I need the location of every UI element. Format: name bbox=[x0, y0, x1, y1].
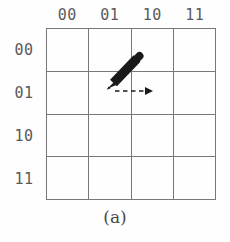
grid-cell[interactable] bbox=[89, 115, 131, 158]
grid-cell[interactable] bbox=[174, 29, 216, 72]
grid-cell[interactable] bbox=[132, 115, 174, 158]
grid-table bbox=[46, 28, 216, 200]
column-header-0: 00 bbox=[46, 4, 89, 26]
grid-cell[interactable] bbox=[132, 157, 174, 200]
row-header-1: 01 bbox=[4, 71, 44, 114]
row-header-0: 00 bbox=[4, 28, 44, 71]
column-header-row: 00 01 10 11 bbox=[46, 4, 216, 26]
grid-cell[interactable] bbox=[132, 29, 174, 72]
grid-cell[interactable] bbox=[132, 72, 174, 115]
grid-cell[interactable] bbox=[89, 29, 131, 72]
grid-cell[interactable] bbox=[47, 29, 89, 72]
grid-cell[interactable] bbox=[89, 157, 131, 200]
grid-cell[interactable] bbox=[47, 72, 89, 115]
grid-cell[interactable] bbox=[47, 115, 89, 158]
column-header-1: 01 bbox=[89, 4, 132, 26]
grid-cell[interactable] bbox=[174, 72, 216, 115]
column-header-2: 10 bbox=[131, 4, 174, 26]
figure-panel-a: 00 01 10 11 00 01 10 11 bbox=[0, 0, 230, 242]
grid-cell[interactable] bbox=[47, 157, 89, 200]
grid-cell[interactable] bbox=[174, 115, 216, 158]
row-header-3: 11 bbox=[4, 157, 44, 200]
figure-caption: (a) bbox=[0, 207, 230, 227]
grid-cell[interactable] bbox=[89, 72, 131, 115]
row-header-2: 10 bbox=[4, 114, 44, 157]
grid-cell[interactable] bbox=[174, 157, 216, 200]
column-header-3: 11 bbox=[174, 4, 217, 26]
row-header-column: 00 01 10 11 bbox=[4, 28, 44, 200]
